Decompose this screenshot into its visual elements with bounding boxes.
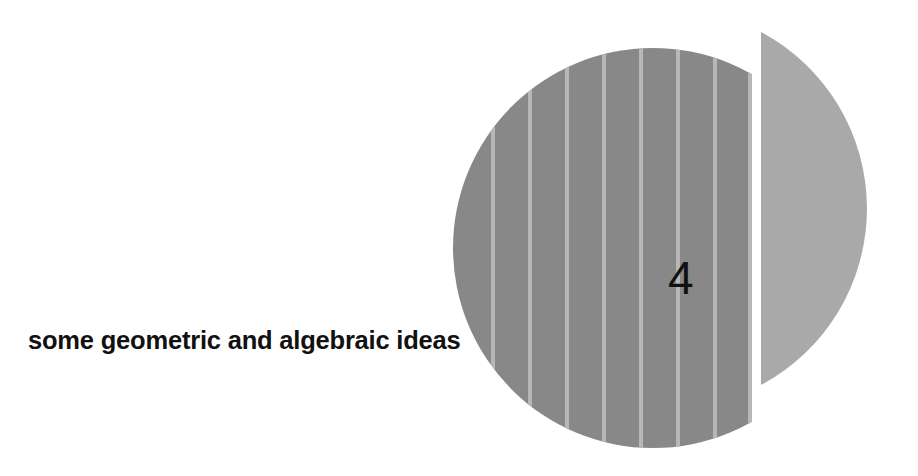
chapter-opener-artwork — [0, 0, 918, 476]
chapter-title: some geometric and algebraic ideas — [28, 328, 728, 354]
chapter-opener-page: 4 some geometric and algebraic ideas — [0, 0, 918, 476]
chapter-number: 4 — [668, 255, 694, 301]
